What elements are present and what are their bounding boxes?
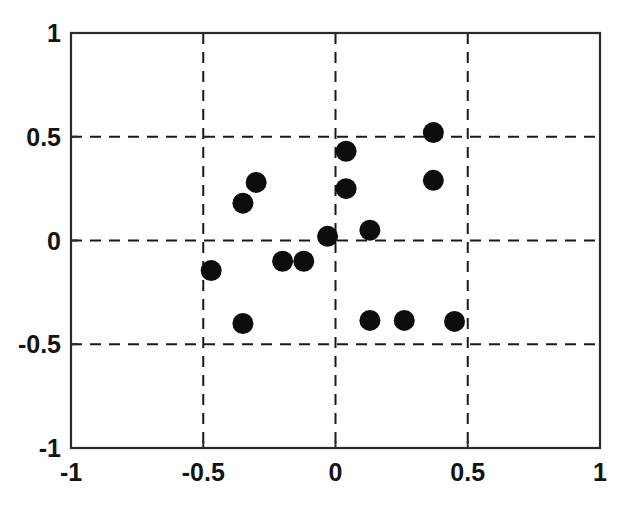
y-tick-label: 0.5 <box>26 123 61 151</box>
data-point <box>201 260 222 281</box>
data-point <box>232 313 253 334</box>
data-point <box>317 226 338 247</box>
plot-canvas: -1-0.500.51 -1-0.500.51 <box>0 0 634 507</box>
data-points <box>201 122 465 334</box>
data-point <box>246 172 267 193</box>
data-point <box>293 251 314 272</box>
x-tick-label: 0 <box>329 458 343 486</box>
x-axis-tick-labels: -1-0.500.51 <box>60 458 607 486</box>
data-point <box>336 178 357 199</box>
data-point <box>359 220 380 241</box>
x-tick-label: -1 <box>60 458 82 486</box>
data-point <box>444 311 465 332</box>
y-tick-label: -1 <box>39 434 61 462</box>
y-axis-tick-labels: -1-0.500.51 <box>18 19 61 462</box>
x-tick-label: -0.5 <box>182 458 225 486</box>
scatter-plot-figure: -1-0.500.51 -1-0.500.51 <box>0 0 634 507</box>
y-tick-label: -0.5 <box>18 330 61 358</box>
data-point <box>423 122 444 143</box>
x-tick-label: 1 <box>593 458 607 486</box>
data-point <box>336 141 357 162</box>
y-tick-label: 1 <box>47 19 61 47</box>
data-point <box>394 310 415 331</box>
data-point <box>423 170 444 191</box>
data-point <box>232 193 253 214</box>
data-point <box>272 251 293 272</box>
y-tick-label: 0 <box>47 227 61 255</box>
x-tick-label: 0.5 <box>450 458 485 486</box>
data-point <box>359 310 380 331</box>
